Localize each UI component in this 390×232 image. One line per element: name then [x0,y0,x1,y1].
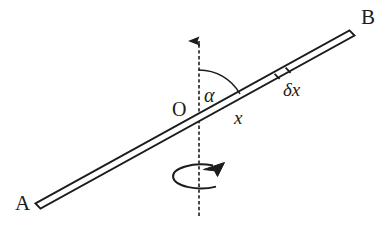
rod-ab [36,30,355,208]
label-origin-o: O [172,99,186,119]
label-end-b: B [361,7,375,28]
label-element-delta-x: δx [283,80,300,99]
label-end-a: A [15,193,30,214]
physics-diagram: A B O α x δx [0,0,390,232]
label-distance-x: x [234,108,242,127]
label-angle-alpha: α [204,85,215,105]
diagram-canvas [0,0,390,232]
rod-body [36,30,355,208]
